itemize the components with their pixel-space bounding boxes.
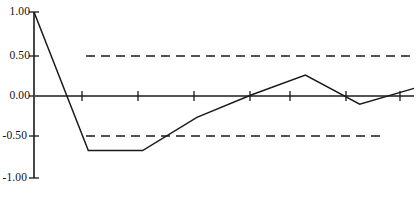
y-axis-label--0.50: -0.50 bbox=[0, 129, 27, 141]
data-series-line bbox=[34, 12, 414, 151]
plot-area bbox=[0, 0, 418, 204]
correlogram-chart: 1.00 0.50 0.00 -0.50 -1.00 bbox=[0, 0, 418, 204]
y-axis-label-0.00: 0.00 bbox=[0, 89, 30, 101]
y-axis-label--1.00: -1.00 bbox=[0, 171, 27, 183]
y-axis-label-1.00: 1.00 bbox=[0, 5, 30, 17]
y-axis-label-0.50: 0.50 bbox=[0, 49, 30, 61]
